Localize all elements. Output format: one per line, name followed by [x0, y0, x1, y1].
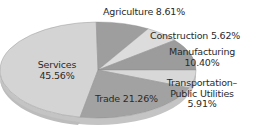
- label-trade: Trade 21.26%: [95, 94, 158, 105]
- label-services-value: 45.56%: [32, 71, 82, 82]
- label-manufacturing-name: Manufacturing: [160, 47, 244, 58]
- label-services-name: Services: [32, 60, 82, 71]
- label-transportation-line1: Transportation–: [156, 78, 248, 89]
- label-transportation: Transportation– Public Utilities 5.91%: [156, 78, 248, 110]
- label-agriculture: Agriculture 8.61%: [103, 7, 185, 18]
- label-manufacturing: Manufacturing 10.40%: [160, 47, 244, 68]
- label-manufacturing-value: 10.40%: [160, 58, 244, 69]
- label-construction: Construction 5.62%: [150, 31, 240, 42]
- label-services: Services 45.56%: [32, 60, 82, 81]
- label-transportation-value: 5.91%: [156, 99, 248, 110]
